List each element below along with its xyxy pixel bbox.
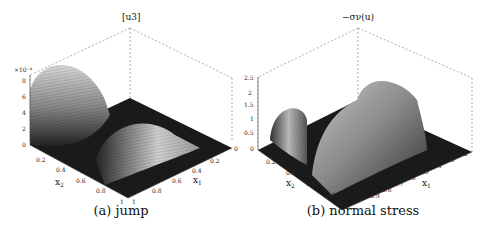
- z-exponent-label: ×10⁻⁴: [14, 66, 33, 73]
- z-axis-label-normal-stress: −σν(u): [342, 12, 374, 22]
- svg-text:0.7: 0.7: [394, 180, 404, 187]
- svg-text:4: 4: [22, 109, 26, 116]
- svg-text:0.6: 0.6: [306, 180, 316, 187]
- svg-text:0.5: 0.5: [419, 168, 429, 175]
- svg-text:0.8: 0.8: [152, 187, 162, 194]
- caption-normal-stress: (b) normal stress: [242, 203, 484, 218]
- svg-text:2.5: 2.5: [244, 74, 254, 81]
- svg-text:0.4: 0.4: [192, 167, 202, 174]
- svg-text:0.4: 0.4: [56, 166, 66, 173]
- svg-text:0.3: 0.3: [445, 156, 455, 163]
- x1-axis-label: x1: [422, 178, 431, 189]
- svg-text:1: 1: [250, 115, 254, 122]
- svg-text:0: 0: [22, 141, 26, 148]
- x2-axis-label: x2: [286, 178, 295, 189]
- svg-text:0: 0: [234, 145, 238, 152]
- svg-text:0.2: 0.2: [210, 157, 220, 164]
- svg-text:0.2: 0.2: [36, 156, 46, 163]
- svg-text:0.2: 0.2: [458, 150, 468, 157]
- svg-text:0.6: 0.6: [406, 174, 416, 181]
- svg-text:0.2: 0.2: [266, 158, 276, 165]
- svg-text:0.8: 0.8: [382, 186, 392, 193]
- panel-normal-stress: 2.5 2 1.5 1 0.5 0 0.2 0.4 0.6 0.8 1 x2 1…: [242, 0, 484, 238]
- svg-text:0.4: 0.4: [432, 162, 442, 169]
- z-axis-label-jump: [u3]: [122, 12, 141, 22]
- svg-text:2: 2: [22, 125, 26, 132]
- svg-text:0.6: 0.6: [76, 177, 86, 184]
- svg-text:0: 0: [250, 145, 254, 152]
- svg-text:0.9: 0.9: [370, 192, 380, 199]
- caption-jump: (a) jump: [0, 203, 242, 218]
- x1-axis-label: x1: [193, 175, 202, 186]
- svg-text:0.4: 0.4: [286, 169, 296, 176]
- svg-text:6: 6: [22, 93, 26, 100]
- svg-text:0.5: 0.5: [244, 129, 254, 136]
- svg-text:0.8: 0.8: [96, 187, 106, 194]
- svg-text:1.5: 1.5: [244, 101, 254, 108]
- svg-text:2: 2: [248, 89, 252, 96]
- panel-jump: ×10⁻⁴ 8 6 4 2 0 0.2 0.4 0.6 0.8 1 x2 1 0…: [0, 0, 242, 238]
- x2-axis-label: x2: [55, 177, 64, 188]
- svg-text:0.8: 0.8: [326, 191, 336, 198]
- svg-text:0.6: 0.6: [172, 177, 182, 184]
- svg-text:8: 8: [22, 77, 26, 84]
